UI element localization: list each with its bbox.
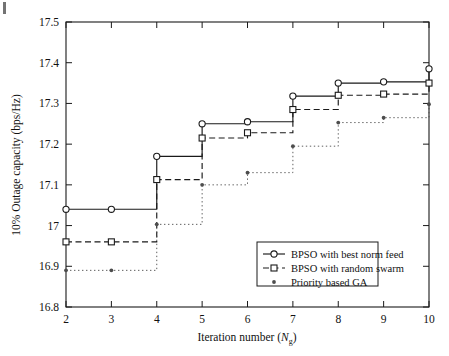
y-tick-label: 17.5 [39,16,59,28]
x-axis-label-close: ) [293,331,297,344]
y-tick-label: 17 [48,220,60,232]
data-point-marker [290,93,296,99]
data-point-marker [199,135,205,141]
x-tick-label: 7 [290,313,296,325]
data-point-marker [426,66,432,72]
data-point-marker [427,102,431,106]
data-point-marker [291,144,295,148]
legend-sample-marker [271,251,277,257]
x-tick-label: 8 [335,313,341,325]
page-edge-artifact [3,2,6,14]
data-point-marker [63,206,69,212]
data-point-marker [426,80,432,86]
data-point-marker [381,91,387,97]
x-axis-label: Iteration number (Ng) [197,331,296,346]
data-point-marker [246,171,250,175]
data-point-marker [64,268,68,272]
data-point-marker [245,130,251,136]
step-chart-canvas: 16.816.91717.117.217.317.417.5 234567891… [0,0,449,356]
data-point-marker [154,177,160,183]
y-tick-label: 17.1 [39,179,59,191]
chart-figure: 16.816.91717.117.217.317.417.5 234567891… [0,0,449,356]
data-point-marker [108,206,114,212]
data-point-marker [244,119,250,125]
data-point-marker [200,183,204,187]
x-tick-label: 10 [423,313,435,325]
legend-label: BPSO with best norm feed [291,249,404,260]
y-axis-label: 10% Outage capacity (bps/Hz) [10,94,23,236]
data-point-marker [290,107,296,113]
y-tick-label: 17.2 [39,138,59,150]
data-point-marker [108,239,114,245]
data-point-marker [109,268,113,272]
data-point-marker [154,153,160,159]
x-tick-label: 3 [109,313,115,325]
data-point-marker [63,239,69,245]
data-point-marker [382,116,386,120]
data-point-marker [335,80,341,86]
legend-sample-marker [271,265,277,271]
legend-label: Priority based GA [291,277,368,288]
x-tick-label: 4 [154,313,160,325]
data-point-marker [335,92,341,98]
x-tick-label: 2 [63,313,69,325]
x-tick-label: 5 [199,313,205,325]
x-axis-label-main: Iteration number ( [197,331,281,344]
y-tick-label: 16.8 [39,301,59,313]
y-tick-label: 17.3 [39,97,59,109]
legend-sample-marker [272,280,276,284]
data-point-marker [381,79,387,85]
y-tick-label: 16.9 [39,260,59,272]
y-tick-label: 17.4 [39,57,59,69]
data-point-marker [336,121,340,125]
x-tick-label: 9 [381,313,387,325]
legend-label: BPSO with random swarm [291,263,404,274]
x-tick-label: 6 [245,313,251,325]
data-point-marker [155,222,159,226]
data-point-marker [199,121,205,127]
